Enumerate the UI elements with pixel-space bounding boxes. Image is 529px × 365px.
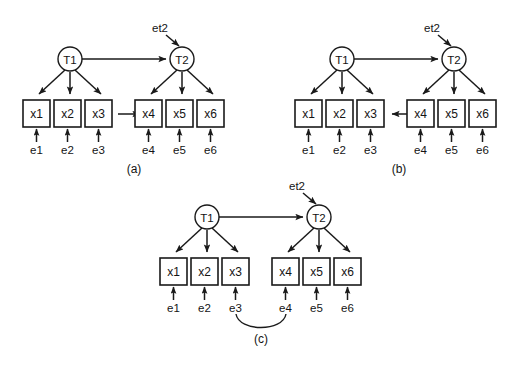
panel-b-error-e4: e4 [414,144,427,156]
panel-a-indicator-x6-label: x6 [204,107,217,121]
panel-b-latent-T2-label: T2 [447,54,460,66]
panel-b-error-e3: e3 [364,144,377,156]
panel-a-latent-T1-label: T1 [63,54,76,66]
panel-c-latent-T2-label: T2 [312,212,325,224]
diagram-canvas: et2 T1 T2 x1 x2 x3 x4 x5 x6 [0,0,529,365]
panel-c-indicator-x5-label: x5 [310,265,323,279]
panel-a-latent-T2-label: T2 [175,54,188,66]
panel-a-indicator-x5-label: x5 [173,107,186,121]
panel-b-indicator-x2-label: x2 [333,107,346,121]
panel-b-indicator-x4-label: x4 [414,107,427,121]
panel-a-error-e3: e3 [92,144,105,156]
panel-c-error-e2: e2 [198,302,211,314]
panel-c-error-e4: e4 [279,302,292,314]
panel-c-indicator-x6-label: x6 [341,265,354,279]
panel-b-indicator-x6-label: x6 [476,107,489,121]
panel-b-et2-label: et2 [424,22,440,34]
panel-c-error-e6: e6 [341,302,354,314]
panel-b-caption: (b) [392,162,407,176]
panel-a-indicator-x3-label: x3 [92,107,105,121]
panel-c-error-e3: e3 [229,302,242,314]
panel-b-error-e6: e6 [476,144,489,156]
panel-c-caption: (c) [254,332,268,346]
panel-b-error-e2: e2 [333,144,346,156]
panel-c-error-e5: e5 [310,302,323,314]
panel-c-indicator-x2-label: x2 [198,265,211,279]
panel-b-indicator-x5-label: x5 [445,107,458,121]
panel-b-error-e5: e5 [445,144,458,156]
panel-a-caption: (a) [127,162,142,176]
panel-a-error-e2: e2 [61,144,74,156]
panel-b-indicator-x1-label: x1 [302,107,315,121]
panel-b-latent-T1-label: T1 [335,54,348,66]
panel-a-et2-label: et2 [152,22,168,34]
panel-a-indicator-x2-label: x2 [61,107,74,121]
panel-b-error-e1: e1 [302,144,315,156]
panel-c-indicator-x1-label: x1 [167,265,180,279]
panel-a-error-e6: e6 [204,144,217,156]
panel-a-indicator-x4-label: x4 [142,107,155,121]
panel-c-indicator-x4-label: x4 [279,265,292,279]
path-diagram-figure: et2 T1 T2 x1 x2 x3 x4 x5 x6 [0,0,529,365]
panel-a-error-e1: e1 [30,144,43,156]
panel-c-et2-label: et2 [289,180,305,192]
panel-c-error-e1: e1 [167,302,180,314]
panel-c-indicator-x3-label: x3 [229,265,242,279]
panel-c-latent-T1-label: T1 [200,212,213,224]
panel-a-error-e5: e5 [173,144,186,156]
panel-a-error-e4: e4 [142,144,155,156]
panel-b-indicator-x3-label: x3 [364,107,377,121]
panel-a-indicator-x1-label: x1 [30,107,43,121]
